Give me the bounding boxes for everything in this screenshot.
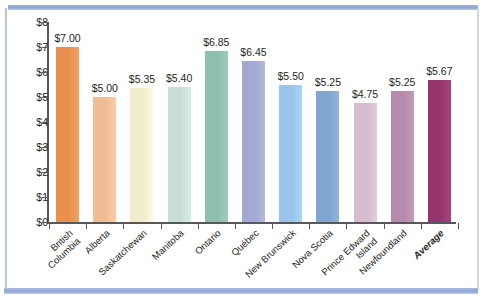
bar-value-label: $5.25 [310,77,346,88]
bar-value-label: $7.00 [50,33,86,44]
category-label: Saskatchewan [76,228,149,297]
y-tick: $7 [0,47,48,48]
y-tick-mark [42,172,48,173]
bar [316,91,339,222]
y-tick: $5 [0,97,48,98]
bar-value-label: $5.35 [124,74,160,85]
plot-area: $8$7$6$5$4$3$2$1$0 $7.00$5.00$5.35$5.40$… [0,0,484,299]
category-label: Manitoba [113,228,186,297]
bar-value-label: $5.00 [87,83,123,94]
x-tick-mark [346,223,347,229]
category-label: Ontario [150,228,223,297]
bar [205,51,228,222]
x-tick-mark [309,223,310,229]
category-label-line: Manitoba [150,227,186,262]
bar [242,61,265,222]
bar-value-label: $6.85 [198,37,234,48]
y-tick: $3 [0,147,48,148]
y-tick: $6 [0,72,48,73]
x-tick-mark [49,223,50,229]
y-tick-mark [42,197,48,198]
category-label-line: Alberta [82,227,112,256]
x-tick-mark [198,223,199,229]
x-tick-mark [421,223,422,229]
y-tick-mark [42,147,48,148]
x-tick-mark [272,223,273,229]
y-tick-mark [42,222,48,223]
y-tick: $1 [0,197,48,198]
bar [279,85,302,223]
x-tick-mark [161,223,162,229]
bar [93,97,116,222]
y-tick-mark [42,122,48,123]
category-label: New Brunswick [225,228,298,297]
category-label: Québec [188,228,261,297]
category-label: Average [374,228,447,297]
bar [354,103,377,222]
x-tick-mark [86,223,87,229]
bar-value-label: $6.45 [236,47,272,58]
y-tick-mark [42,47,48,48]
x-tick-mark [458,223,459,229]
bar [391,91,414,222]
x-tick-mark [384,223,385,229]
bar [56,47,79,222]
bar-value-label: $4.75 [347,89,383,100]
x-axis-line [47,222,456,224]
bar [168,87,191,222]
y-tick: $8 [0,22,48,23]
x-tick-mark [235,223,236,229]
bar-value-label: $5.50 [273,71,309,82]
bar [130,88,153,222]
y-tick-mark [42,72,48,73]
bar-value-label: $5.67 [421,66,457,77]
category-label-line: Québec [228,227,260,258]
y-tick: $4 [0,122,48,123]
category-label-line: Average [411,227,446,261]
y-tick-mark [42,22,48,23]
y-tick: $2 [0,172,48,173]
chart-figure: $8$7$6$5$4$3$2$1$0 $7.00$5.00$5.35$5.40$… [0,0,484,299]
x-tick-mark [123,223,124,229]
y-tick: $0 [0,222,48,223]
category-label-line: Ontario [193,227,223,256]
bar [428,80,451,222]
y-tick-mark [42,97,48,98]
bar-value-label: $5.40 [161,73,197,84]
bar-value-label: $5.25 [384,77,420,88]
